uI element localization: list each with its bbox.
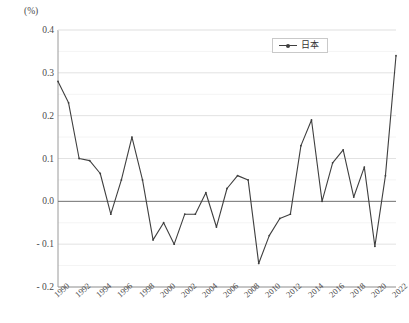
data-point (226, 188, 228, 190)
data-point (120, 179, 122, 181)
data-point (258, 263, 260, 265)
data-point (194, 213, 196, 215)
data-point (321, 200, 323, 202)
series-line (58, 56, 396, 264)
data-point (279, 218, 281, 220)
data-point (68, 102, 70, 104)
data-point (205, 192, 207, 194)
data-point (184, 213, 186, 215)
data-point (173, 243, 175, 245)
data-point (99, 173, 101, 175)
data-point (353, 196, 355, 198)
data-point (385, 175, 387, 177)
data-point (289, 213, 291, 215)
data-point (311, 119, 313, 121)
data-point (216, 226, 218, 228)
data-point (374, 245, 376, 247)
data-point (89, 160, 91, 162)
data-point (300, 145, 302, 147)
data-series (57, 55, 397, 265)
data-point (152, 239, 154, 241)
data-point (163, 222, 165, 224)
legend-line-marker-icon (279, 41, 297, 50)
data-point (110, 213, 112, 215)
data-point (363, 166, 365, 168)
data-point (395, 55, 397, 57)
legend-entry-label: 日本 (301, 41, 319, 50)
data-point (342, 149, 344, 151)
data-point (142, 179, 144, 181)
data-point (237, 175, 239, 177)
data-point (57, 81, 59, 83)
data-point (332, 162, 334, 164)
data-point (268, 235, 270, 237)
data-point (131, 136, 133, 138)
legend: 日本 (272, 38, 328, 53)
data-point (247, 179, 249, 181)
data-point (78, 158, 80, 160)
